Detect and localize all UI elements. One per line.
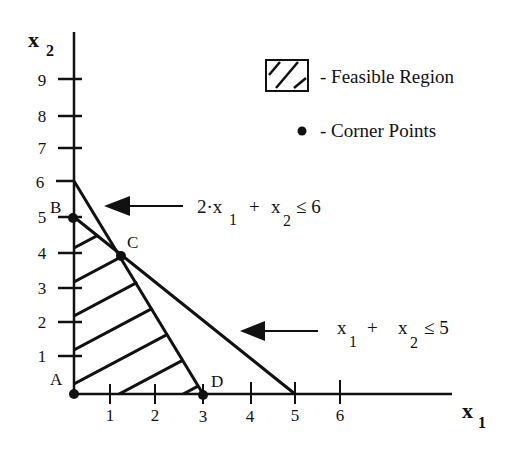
- svg-text:5: 5: [38, 208, 47, 227]
- svg-text:5: 5: [291, 406, 300, 425]
- constraint-label-2: x 1 + x 2 ≤ 5: [337, 317, 449, 351]
- svg-text:B: B: [50, 198, 61, 217]
- svg-text:4: 4: [38, 244, 47, 263]
- corner-point-c: [116, 251, 126, 261]
- svg-text:2: 2: [38, 313, 47, 332]
- svg-text:6: 6: [336, 406, 345, 425]
- feasible-region-hatch: [74, 94, 300, 452]
- svg-text:1: 1: [106, 406, 115, 425]
- svg-text:1: 1: [229, 211, 237, 228]
- legend-corner-label: - Corner Points: [320, 120, 436, 141]
- svg-text:≤ 5: ≤ 5: [424, 317, 449, 338]
- svg-text:2: 2: [283, 212, 291, 229]
- svg-text:C: C: [127, 233, 138, 252]
- svg-text:6: 6: [36, 173, 45, 192]
- svg-text:2: 2: [46, 42, 54, 59]
- svg-text:x: x: [337, 317, 347, 338]
- x-axis-label: x 1: [462, 398, 486, 431]
- svg-text:2: 2: [410, 334, 418, 351]
- svg-text:x: x: [271, 196, 281, 217]
- svg-text:9: 9: [38, 71, 47, 90]
- svg-text:4: 4: [246, 407, 255, 426]
- feasible-region-legend-icon: [266, 60, 308, 91]
- svg-text:1: 1: [38, 347, 47, 366]
- svg-text:D: D: [211, 372, 223, 391]
- svg-text:2: 2: [151, 406, 160, 425]
- svg-text:1: 1: [478, 414, 486, 431]
- corner-point-labels: A B C D: [50, 198, 223, 391]
- svg-text:3: 3: [199, 407, 208, 426]
- svg-text:8: 8: [38, 107, 47, 126]
- corner-point-d: [198, 390, 208, 400]
- corner-point-a: [69, 389, 79, 399]
- svg-text:+: +: [249, 196, 260, 217]
- legend-feasible-label: - Feasible Region: [320, 66, 455, 87]
- svg-text:A: A: [50, 370, 63, 389]
- svg-text:≤ 6: ≤ 6: [296, 196, 321, 217]
- arrow-constraint-1: [104, 196, 183, 216]
- x-ticks: [110, 380, 340, 404]
- svg-text:x: x: [398, 317, 408, 338]
- arrow-constraint-2: [240, 321, 318, 341]
- y-axis-label: x 2: [28, 27, 54, 59]
- legend: - Feasible Region - Corner Points: [266, 60, 455, 141]
- constraint-line-2x1-x2-6: [74, 181, 203, 394]
- svg-text:x: x: [462, 398, 473, 423]
- corner-point-legend-icon: [298, 127, 307, 136]
- svg-text:7: 7: [38, 139, 47, 158]
- x-tick-labels: 1 2 3 4 5 6: [106, 406, 345, 426]
- svg-text:1: 1: [349, 333, 357, 350]
- svg-text:x: x: [28, 27, 39, 52]
- lp-diagram: 1 2 3 4 5 6 7 8 9 1 2 3 4 5 6 x 2 x 1 A …: [0, 0, 511, 453]
- svg-text:+: +: [367, 317, 378, 338]
- corner-point-b: [68, 213, 78, 223]
- svg-text:3: 3: [38, 279, 47, 298]
- y-tick-labels: 1 2 3 4 5 6 7 8 9: [36, 71, 47, 366]
- svg-text:2·x: 2·x: [197, 196, 223, 217]
- constraint-label-1: 2·x 1 + x 2 ≤ 6: [197, 196, 321, 229]
